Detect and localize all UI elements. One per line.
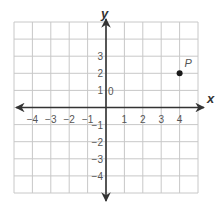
y-axis-label: y	[100, 6, 109, 21]
x-tick-label: 3	[158, 114, 164, 125]
tick-labels: −4−3−2−11234321−1−2−3−4	[27, 51, 183, 182]
coordinate-plane: −4−3−2−11234321−1−2−3−4 P x y 0	[0, 0, 220, 209]
y-tick-label: 3	[97, 51, 103, 62]
x-axis-label: x	[206, 91, 215, 106]
origin-label: 0	[108, 86, 114, 97]
x-tick-label: −3	[45, 114, 57, 125]
axes	[16, 19, 204, 201]
x-tick-label: 4	[177, 114, 183, 125]
y-tick-label: −2	[92, 137, 104, 148]
x-tick-label: 2	[140, 114, 146, 125]
x-tick-label: 1	[122, 114, 128, 125]
x-tick-label: −4	[27, 114, 39, 125]
x-tick-label: −2	[63, 114, 75, 125]
y-tick-label: −4	[92, 171, 104, 182]
point-label: P	[185, 57, 193, 69]
y-tick-label: 1	[97, 85, 103, 96]
y-tick-label: −3	[92, 154, 104, 165]
y-tick-label: 2	[97, 68, 103, 79]
y-tick-label: −1	[92, 120, 104, 131]
point-p	[177, 70, 183, 76]
